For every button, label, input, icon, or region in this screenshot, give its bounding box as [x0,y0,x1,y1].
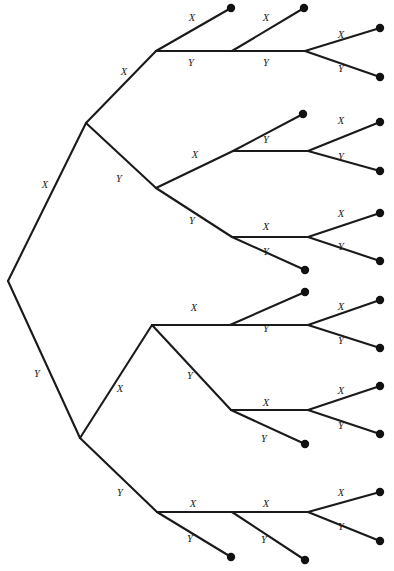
edge-y-x [80,325,152,438]
edge-yyxx-y [308,512,380,541]
terminal-node [301,440,309,448]
terminal-node [301,288,309,296]
terminal-node [376,488,384,496]
edge-yxyx-y [308,410,380,434]
edge-root-x [8,123,86,281]
terminal-node [376,296,384,304]
edge-yyx-y [232,512,305,560]
edge-label: Y [263,246,270,257]
level2-edges [80,51,157,512]
edge-labels: X Y X Y X Y X Y X Y X Y X Y X Y Y X Y X … [34,12,345,545]
terminal-node [227,553,235,561]
edge-label: X [262,12,270,23]
edge-label: X [188,12,196,23]
edge-label: Y [187,370,194,381]
edge-xyyx-y [308,237,380,261]
root-edges [8,123,86,438]
terminal-node [376,24,384,32]
edge-label: X [116,383,124,394]
edge-x-x [86,51,156,123]
terminal-node [376,430,384,438]
terminal-node [376,382,384,390]
terminal-node [376,537,384,545]
edge-label: X [120,66,128,77]
terminal-node [300,4,308,12]
edge-label: X [189,498,197,509]
terminal-node [376,344,384,352]
terminal-node [376,167,384,175]
edge-label: X [262,397,270,408]
terminal-node [376,118,384,126]
edge-yxx-y [308,325,380,348]
terminal-node [376,257,384,265]
edge-yy-y [157,512,231,557]
edge-xyx-x [233,114,303,151]
subtree-bottom-2 [231,386,380,444]
terminal-node [376,209,384,217]
edge-label: Y [189,215,196,226]
edge-label: X [41,179,49,190]
edge-label: X [337,29,345,40]
tree-canvas: X Y X Y X Y X Y X Y X Y X Y X Y Y X Y X … [0,0,394,571]
edge-label: X [337,301,345,312]
edge-label: Y [34,368,41,379]
edge-label: X [337,208,345,219]
edge-label: Y [188,57,195,68]
edge-label: Y [261,433,268,444]
edge-label: X [262,221,270,232]
terminal-node [376,73,384,81]
subtree-top-3 [232,213,380,270]
edge-xyxy-y [308,151,380,171]
edge-label: Y [263,134,270,145]
terminal-node [301,556,309,564]
edge-y-y [80,438,157,512]
terminal-node [227,4,235,12]
edge-yx-up [230,292,305,325]
edge-yxy-y [231,410,305,444]
edge-root-y [8,281,80,438]
edge-label: Y [263,57,270,68]
edge-label: X [262,498,270,509]
terminal-node [299,110,307,118]
edge-yx-y [152,325,231,410]
edge-label: Y [117,487,124,498]
edge-label: Y [116,173,123,184]
edge-label: X [337,385,345,396]
terminal-node [301,266,309,274]
edge-label: X [337,115,345,126]
edge-label: X [190,302,198,313]
edge-label: Y [338,241,345,252]
terminal-nodes [227,4,384,564]
edge-xy-y [156,188,232,237]
game-tree-diagram: X Y X Y X Y X Y X Y X Y X Y X Y Y X Y X … [0,0,394,571]
edge-label: X [191,149,199,160]
subtree-bottom-1 [152,292,380,410]
edge-label: X [337,487,345,498]
